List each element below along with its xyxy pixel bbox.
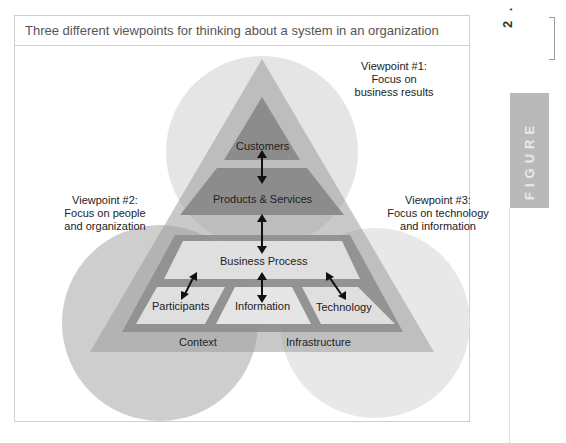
information-label: Information <box>235 300 290 313</box>
participants-label: Participants <box>152 300 209 313</box>
infrastructure-label: Infrastructure <box>286 336 351 349</box>
viewpoint-2-label: Viewpoint #2: Focus on people and organi… <box>50 194 160 233</box>
business-process-label: Business Process <box>220 255 307 268</box>
viewpoint-3-label: Viewpoint #3: Focus on technology and in… <box>380 194 496 233</box>
context-label: Context <box>179 336 217 349</box>
technology-label: Technology <box>316 301 372 314</box>
customers-label: Customers <box>236 140 289 153</box>
products-services-label: Products & Services <box>213 193 312 206</box>
viewpoint-1-label: Viewpoint #1: Focus on business results <box>343 60 445 99</box>
